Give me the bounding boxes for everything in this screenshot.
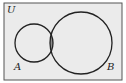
set-a-label: A bbox=[14, 62, 21, 72]
universe-label: U bbox=[7, 5, 15, 15]
set-b-label: B bbox=[107, 62, 114, 72]
